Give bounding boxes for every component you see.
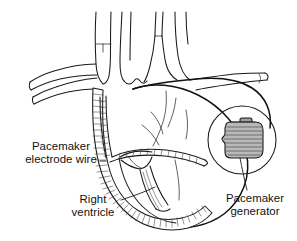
label-generator-line1: Pacemaker — [217, 192, 293, 205]
surface-contour-a — [168, 98, 176, 127]
right-subclavian-endcap-inner — [259, 74, 261, 83]
great-vessels-group — [29, 12, 268, 104]
label-electrode-wire-line2: electrode wire — [16, 153, 106, 166]
right-subclavian-lower-edge — [196, 80, 267, 90]
left-vessel-lower-loop — [103, 52, 111, 84]
papillary-muscle-right — [150, 166, 168, 205]
right-vessel-left-edge — [175, 12, 190, 80]
generator-inset-group — [208, 106, 276, 174]
left-vessel-inner-edge — [111, 12, 112, 52]
chordae-a — [143, 172, 159, 209]
label-right-ventricle: Right ventricle — [61, 193, 125, 219]
surface-contour-c — [142, 125, 159, 145]
label-pacemaker-electrode-wire: Pacemaker electrode wire — [16, 140, 106, 166]
label-pacemaker-generator: Pacemaker generator — [217, 192, 293, 218]
aorta-descend-right — [162, 36, 177, 80]
arch-scallop — [124, 79, 147, 84]
left-second-vessel-cap — [32, 97, 34, 104]
lead-electrode-tip — [204, 160, 208, 166]
lead-rail-top-horizontal — [112, 149, 205, 160]
right-subclavian-cap — [265, 73, 268, 80]
pacemaker-illustration: Pacemaker electrode wire Right ventricle… — [0, 0, 297, 241]
label-right-ventricle-line2: ventricle — [61, 206, 125, 219]
label-electrode-wire-line1: Pacemaker — [16, 140, 106, 153]
middle-vessel-left-edge — [120, 12, 124, 81]
middle-vessel-right-edge — [130, 12, 131, 60]
lead-rail-right-upper — [106, 96, 112, 157]
papillary-base — [156, 209, 170, 211]
label-right-ventricle-line1: Right — [61, 193, 125, 206]
valve-leaflet-a — [121, 160, 140, 169]
label-generator-line2: generator — [217, 205, 293, 218]
left-subclavian-lower-edge — [31, 75, 97, 90]
surface-contour-d — [186, 110, 188, 139]
right-vessel-right-edge — [186, 12, 188, 44]
aorta-branch-left-edge — [155, 12, 156, 36]
septal-leaflet-line — [175, 160, 179, 200]
aorta-descend-left — [144, 36, 155, 82]
surface-contour-b — [151, 112, 163, 134]
left-vessel-outer-edge — [95, 12, 103, 84]
left-second-vessel-upper — [33, 78, 97, 97]
aorta-branch-right-edge — [162, 12, 163, 36]
left-subclavian-cap — [29, 82, 31, 90]
